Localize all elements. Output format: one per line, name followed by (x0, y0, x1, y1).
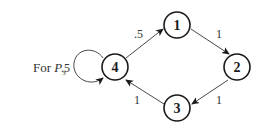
node-3: 3 (164, 95, 190, 121)
edge-4-to-4 (74, 50, 103, 82)
edge-2-to-3 (192, 80, 228, 104)
edge-label-3-4: 1 (134, 93, 140, 107)
edge-1-to-2 (191, 29, 229, 54)
node-1: 1 (164, 12, 190, 38)
caption-prefix: For (33, 60, 54, 75)
edge-label-4-1: .5 (134, 27, 143, 41)
edge-3-to-4 (126, 80, 164, 104)
node-4: 4 (102, 54, 128, 80)
node-2-label: 2 (234, 60, 241, 75)
node-3-label: 3 (174, 101, 181, 116)
edge-label-4-4: .5 (61, 61, 70, 75)
markov-chain-diagram: For P3 .5 .5 1 1 1 1 2 3 4 (0, 0, 265, 129)
node-2: 2 (224, 54, 250, 80)
edge-4-to-1 (126, 29, 163, 58)
edge-label-2-3: 1 (216, 93, 222, 107)
node-1-label: 1 (174, 18, 181, 33)
edge-label-1-2: 1 (216, 27, 222, 41)
node-4-label: 4 (112, 60, 119, 75)
